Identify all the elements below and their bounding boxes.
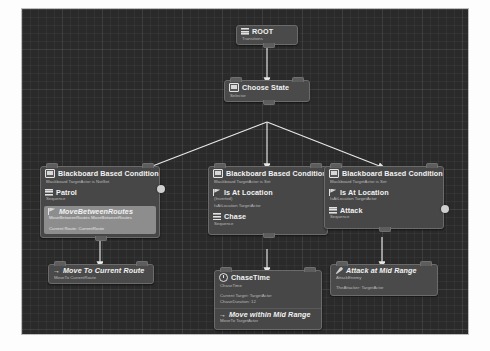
patrol-task-subtitle-1: MoveBetweenRoutes MoveBetweenRoutes	[48, 215, 152, 221]
chase-composite-title: Chase	[224, 213, 246, 220]
monitor-icon	[213, 169, 223, 178]
attack-composite-subtitle: Sequence	[329, 214, 439, 220]
node-input-nub-left	[46, 163, 58, 168]
node-pin[interactable]	[157, 185, 165, 193]
node-output-nub	[263, 100, 275, 105]
node-choose-state[interactable]: Choose State Selector	[224, 80, 310, 102]
node-patrol-branch[interactable]: Blackboard Based Condition Blackboard Ta…	[40, 166, 160, 238]
attack-composite[interactable]: Attack Sequence	[325, 205, 443, 223]
patrol-composite-subtitle: Sequence	[45, 196, 155, 202]
chase-time-title: ChaseTime	[231, 274, 270, 281]
node-input-nub-right	[292, 77, 304, 82]
attack-task-body: Attack at Mid Range AttackEnemy TheAttac…	[331, 265, 437, 293]
monitor-icon	[229, 83, 239, 92]
flag-icon	[329, 189, 337, 196]
chase-condition[interactable]: Is At Location (Inverted) IsAtLocation T…	[209, 187, 327, 212]
attack-condition-subtitle: IsAtLocation TargetActor	[329, 196, 439, 202]
node-input-nub-left	[330, 163, 342, 168]
attack-decorator[interactable]: Blackboard Based Condition Blackboard Ta…	[325, 167, 443, 187]
patrol-composite-title: Patrol	[56, 189, 77, 196]
attack-composite-title: Attack	[340, 207, 363, 214]
node-chase-branch[interactable]: Blackboard Based Condition Blackboard Ta…	[208, 166, 328, 235]
move-route-subtitle: MoveTo CurrentRoute	[53, 275, 149, 281]
arrow-icon: →	[219, 311, 226, 318]
chase-move-title: Move within Mid Range	[229, 311, 311, 318]
node-input-nub-left	[230, 77, 242, 82]
chase-time-subtitle-1: ChaseTime	[219, 283, 317, 289]
node-move-to-current-route[interactable]: → Move To Current Route MoveTo CurrentRo…	[48, 264, 154, 284]
attack-decorator-subtitle: Blackboard TargetActor is Set	[329, 179, 439, 185]
patrol-task-selected[interactable]: MoveBetweenRoutes MoveBetweenRoutes Move…	[44, 206, 156, 234]
screenshot-root: ROOT Transitions Choose State Selector	[0, 0, 490, 351]
node-output-nub	[263, 43, 275, 48]
node-input-nub-right	[142, 163, 154, 168]
sword-icon	[335, 267, 343, 274]
move-route-title: Move To Current Route	[63, 267, 144, 274]
attack-task-title: Attack at Mid Range	[346, 267, 417, 274]
node-output-nub	[263, 233, 275, 238]
bars-icon	[45, 189, 53, 196]
chase-decorator-title: Blackboard Based Condition	[226, 170, 327, 177]
choose-state-title: Choose State	[242, 84, 289, 91]
monitor-icon	[45, 169, 55, 178]
chase-time-body[interactable]: ChaseTime ChaseTime Current Target: Targ…	[215, 271, 321, 308]
chase-composite-subtitle: Sequence	[213, 221, 323, 227]
patrol-decorator-subtitle: Blackboard TargetActor is NotSet	[45, 179, 155, 185]
attack-task-subtitle-2: TheAttacker: TargetActor	[335, 285, 433, 291]
clock-icon	[219, 273, 228, 282]
flag-icon	[213, 189, 221, 196]
choose-state-subtitle: Selector	[229, 93, 305, 99]
node-attack-branch[interactable]: Blackboard Based Condition Blackboard Ta…	[324, 166, 444, 229]
move-route-body: → Move To Current Route MoveTo CurrentRo…	[49, 265, 153, 283]
flag-icon	[48, 208, 56, 215]
attack-decorator-title: Blackboard Based Condition	[342, 170, 443, 177]
patrol-composite[interactable]: Patrol Sequence	[41, 187, 159, 205]
choose-state-body: Choose State Selector	[225, 81, 309, 101]
root-title: ROOT	[252, 28, 273, 35]
chase-condition-subtitle-1: (Inverted)	[213, 196, 323, 202]
node-output-nub	[95, 236, 107, 241]
chase-condition-subtitle-2: IsAtLocation TargetActor	[213, 203, 323, 209]
chase-condition-title: Is At Location	[224, 189, 273, 196]
chase-time-subtitle-3: ChaseDuration: 12	[219, 299, 317, 305]
chase-composite[interactable]: Chase Sequence	[209, 211, 327, 229]
node-input-nub-right	[420, 261, 432, 266]
chase-move-task[interactable]: → Move within Mid Range MoveTo TargetAct…	[215, 308, 321, 327]
behavior-tree-canvas[interactable]: ROOT Transitions Choose State Selector	[22, 9, 468, 334]
patrol-task-subtitle-2: Current Route: CurrentRoute	[48, 226, 152, 232]
node-input-nub-left	[220, 267, 232, 272]
monitor-icon	[329, 169, 339, 178]
chase-time-subtitle-2: Current Target: TargetActor	[219, 293, 317, 299]
patrol-decorator-title: Blackboard Based Condition	[58, 170, 159, 177]
attack-task-subtitle-1: AttackEnemy	[335, 275, 433, 281]
chase-move-subtitle: MoveTo TargetActor	[219, 318, 317, 324]
node-input-nub-right	[310, 163, 322, 168]
root-body: ROOT Transitions	[237, 26, 297, 44]
patrol-decorator[interactable]: Blackboard Based Condition Blackboard Ta…	[41, 167, 159, 187]
chase-decorator-subtitle: Blackboard TargetActor is Set	[213, 179, 323, 185]
node-chase-time[interactable]: ChaseTime ChaseTime Current Target: Targ…	[214, 270, 322, 330]
node-pin[interactable]	[441, 205, 449, 213]
arrow-icon: →	[53, 267, 60, 274]
chase-decorator[interactable]: Blackboard Based Condition Blackboard Ta…	[209, 167, 327, 187]
node-input-nub-left	[336, 261, 348, 266]
node-attack-at-mid-range[interactable]: Attack at Mid Range AttackEnemy TheAttac…	[330, 264, 438, 296]
node-input-nub-right	[304, 267, 316, 272]
node-input-nub-right	[426, 163, 438, 168]
patrol-task-title: MoveBetweenRoutes	[59, 208, 133, 215]
bars-icon	[213, 213, 221, 220]
bars-icon	[329, 207, 337, 214]
bars-icon	[241, 28, 249, 35]
root-subtitle: Transitions	[241, 36, 293, 42]
node-input-nub-left	[214, 163, 226, 168]
attack-condition[interactable]: Is At Location IsAtLocation TargetActor	[325, 187, 443, 205]
node-root[interactable]: ROOT Transitions	[236, 25, 298, 45]
node-input-nub-right	[136, 261, 148, 266]
node-input-nub-left	[54, 261, 66, 266]
node-output-nub	[379, 227, 391, 232]
attack-condition-title: Is At Location	[340, 189, 389, 196]
